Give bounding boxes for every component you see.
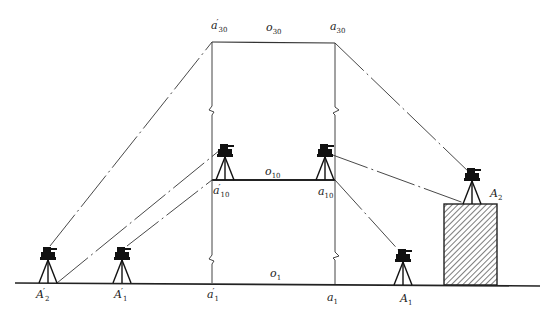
- instrument-a10-prime-station: [216, 144, 234, 180]
- sight-line-A2-a30: [335, 43, 471, 174]
- instrument-A2: [463, 168, 481, 204]
- sight-line-A2prime-a10prime-station: [57, 150, 220, 283]
- label-o30: o30: [266, 22, 282, 33]
- floor-30-line: [212, 42, 335, 43]
- sight-line-A1prime-a10prime: [127, 180, 212, 246]
- right-vertical-line: [333, 43, 339, 284]
- label-a10: a10: [318, 186, 333, 197]
- sight-line-A2-a10station: [330, 154, 464, 203]
- building-block: [444, 204, 497, 285]
- label-A1: A1: [400, 293, 412, 304]
- label-A1-prime: A′1: [114, 289, 127, 300]
- label-a30: a30: [330, 21, 345, 32]
- label-o10: o10: [265, 166, 281, 177]
- instrument-a10-station: [316, 144, 334, 180]
- label-a30-prime: a′30: [211, 20, 228, 31]
- label-a1-prime: a′1: [207, 289, 219, 300]
- sight-line-A1-a10: [335, 180, 403, 255]
- left-vertical-line: [209, 42, 214, 283]
- label-A2-prime: A′2: [36, 289, 49, 300]
- instrument-A2-prime: [39, 247, 57, 283]
- label-o1: o1: [270, 268, 281, 279]
- instrument-A1: [394, 249, 412, 285]
- label-A2: A2: [490, 188, 502, 199]
- label-a1: a1: [327, 292, 338, 303]
- instrument-A1-prime: [113, 247, 131, 283]
- label-a10-prime: a′10: [213, 185, 230, 196]
- sight-line-A2prime-a30prime: [50, 42, 212, 246]
